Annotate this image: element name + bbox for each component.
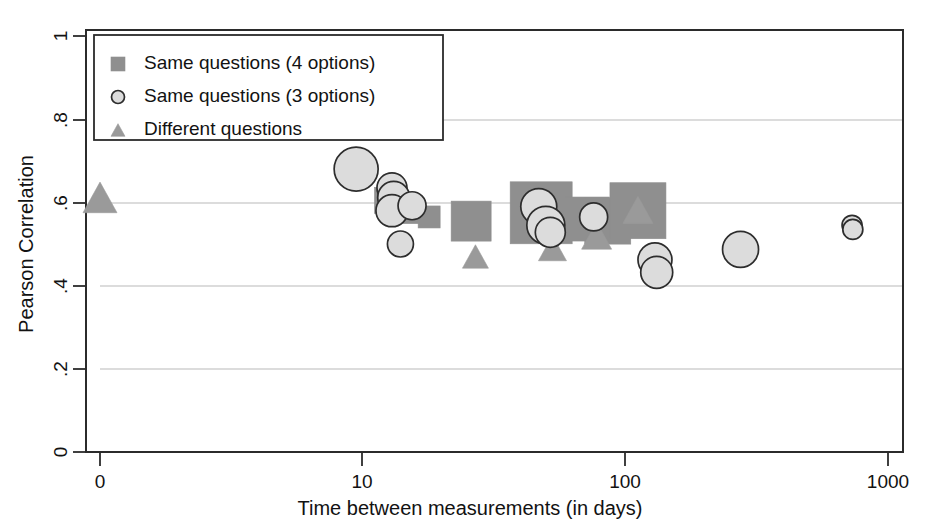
y-tick-label: 1 [50,31,71,42]
legend-label: Different questions [144,118,302,139]
data-point [462,245,488,268]
x-tick-label: 1000 [867,471,909,492]
y-tick-marks [73,36,86,452]
data-point [398,192,426,220]
y-tick-label: .8 [50,112,71,128]
data-point [451,201,491,241]
data-markers-group [83,147,863,288]
x-tick-marks [100,452,888,466]
legend-label: Same questions (4 options) [144,52,375,73]
x-tick-labels: 0 10 100 1000 [95,471,909,492]
y-tick-label: .6 [50,195,71,211]
legend-marker-circle [112,91,125,104]
y-tick-label: .4 [50,278,71,294]
y-tick-label: .2 [50,361,71,377]
data-point [387,231,413,257]
data-point [334,147,378,191]
plot-canvas: 1 .8 .6 .4 .2 0 Pearson Correlation 0 10… [0,0,931,529]
x-tick-label: 10 [351,471,372,492]
x-tick-label: 100 [609,471,641,492]
scatter-plot-figure: 1 .8 .6 .4 .2 0 Pearson Correlation 0 10… [0,0,931,529]
legend-marker-square [111,57,125,71]
data-point [843,219,863,239]
data-point [641,256,673,288]
y-tick-label: 0 [50,447,71,458]
data-point [535,217,565,247]
x-axis-title: Time between measurements (in days) [298,497,643,519]
y-axis-title: Pearson Correlation [15,155,37,333]
x-tick-label: 0 [95,471,106,492]
data-point [580,203,608,231]
series-circle [334,147,863,288]
data-point [83,182,117,213]
legend-label: Same questions (3 options) [144,85,375,106]
gridlines [100,120,903,369]
y-tick-labels: 1 .8 .6 .4 .2 0 [50,31,71,458]
data-point [723,231,759,267]
chart-legend: Same questions (4 options)Same questions… [94,35,443,140]
